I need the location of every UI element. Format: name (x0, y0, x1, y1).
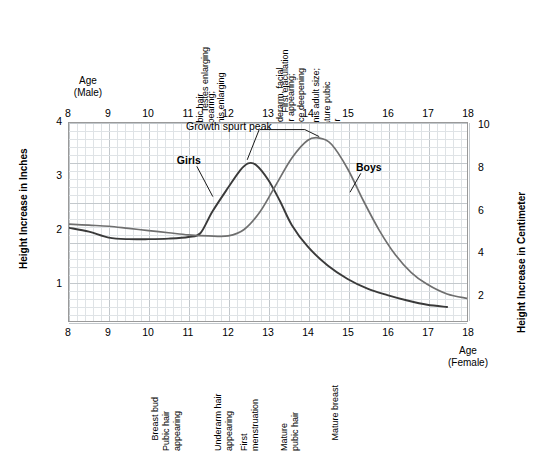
top-tick-18: 18 (457, 108, 479, 119)
top-tick-13: 13 (257, 108, 279, 119)
plot-area (68, 122, 468, 322)
top-tick-12: 12 (217, 108, 239, 119)
left-tick-1: 1 (48, 278, 62, 289)
bottom-tick-14: 14 (297, 327, 319, 338)
female-milestone-3: First menstruation (239, 399, 260, 451)
female-milestone-1: Pubic hair appearing (161, 411, 182, 451)
top-tick-11: 11 (177, 108, 199, 119)
curve-girls (69, 163, 447, 307)
bottom-tick-15: 15 (337, 327, 359, 338)
female-milestone-5: Mature breast (330, 385, 341, 441)
growth-spurt-peak-annotation: Growth spurt peak (186, 120, 272, 132)
top-tick-17: 17 (417, 108, 439, 119)
bottom-tick-9: 9 (97, 327, 119, 338)
bottom-tick-18: 18 (457, 327, 479, 338)
female-milestone-2: Underarm hair appearing (213, 393, 234, 451)
top-tick-9: 9 (97, 108, 119, 119)
curve-layer (69, 123, 467, 322)
left-tick-2: 2 (48, 224, 62, 235)
bottom-tick-8: 8 (57, 327, 79, 338)
bottom-tick-10: 10 (137, 327, 159, 338)
bottom-tick-13: 13 (257, 327, 279, 338)
top-tick-15: 15 (337, 108, 359, 119)
series-label-boys: Boys (356, 161, 382, 173)
female-milestone-0: Breast bud (150, 397, 161, 441)
right-axis-title: Height Increase in Centimeter (516, 192, 527, 333)
bottom-tick-11: 11 (177, 327, 199, 338)
right-tick-2: 2 (478, 290, 492, 301)
top-tick-14: 14 (297, 108, 319, 119)
left-tick-3: 3 (48, 170, 62, 181)
top-tick-10: 10 (137, 108, 159, 119)
right-tick-4: 4 (478, 247, 492, 258)
right-tick-8: 8 (478, 162, 492, 173)
bottom-tick-12: 12 (217, 327, 239, 338)
right-tick-10: 10 (478, 119, 492, 130)
top-tick-16: 16 (377, 108, 399, 119)
bottom-tick-17: 17 (417, 327, 439, 338)
grid-line-major-v (469, 123, 470, 321)
left-tick-4: 4 (48, 116, 62, 127)
curve-boys (69, 138, 467, 299)
left-axis-title: Height Increase in Inches (18, 148, 29, 269)
female-milestone-4: Mature pubic hair (279, 412, 300, 451)
right-tick-6: 6 (478, 205, 492, 216)
series-label-girls: Girls (177, 154, 201, 166)
bottom-axis-title: Age (Female) (440, 345, 496, 368)
bottom-tick-16: 16 (377, 327, 399, 338)
grid-line-major-h (69, 323, 467, 324)
top-axis-title: Age (Male) (60, 75, 116, 98)
